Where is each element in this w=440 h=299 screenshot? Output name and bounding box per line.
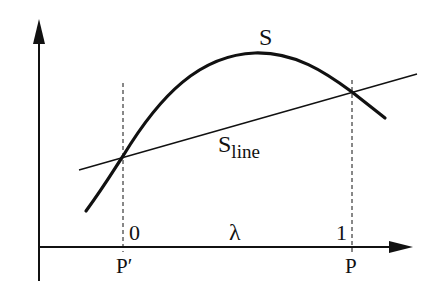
s-curve: [86, 53, 385, 211]
point-label-p-prime: P′: [116, 254, 132, 278]
y-axis: [33, 19, 45, 281]
y-axis-arrow-icon: [33, 19, 45, 44]
tick-label-1: 1: [336, 220, 347, 245]
line-label-s-line: Sline: [218, 131, 260, 162]
tick-label-0: 0: [129, 220, 140, 245]
x-axis-arrow-icon: [389, 241, 413, 253]
point-label-p: P: [345, 254, 357, 278]
diagram-canvas: S Sline 0 λ 1 P′ P: [0, 0, 440, 299]
x-axis-label-lambda: λ: [229, 219, 241, 245]
curve-label-s: S: [259, 24, 272, 50]
x-axis: [39, 241, 413, 253]
